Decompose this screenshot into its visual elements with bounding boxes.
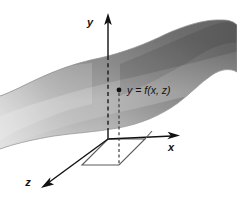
point-equation-label: y = f(x, z) <box>126 84 170 96</box>
z-axis-arrowhead <box>41 177 54 188</box>
surface-group <box>0 20 237 152</box>
x-axis-label: x <box>167 141 175 153</box>
z-axis-label: z <box>24 176 31 188</box>
surface-diagram-canvas: y x z y = f(x, z) <box>0 0 237 202</box>
surface-point-dot <box>117 88 122 93</box>
z-axis-line <box>48 139 108 183</box>
surface-figure: y x z y = f(x, z) <box>0 0 237 202</box>
y-axis-label: y <box>86 16 94 28</box>
